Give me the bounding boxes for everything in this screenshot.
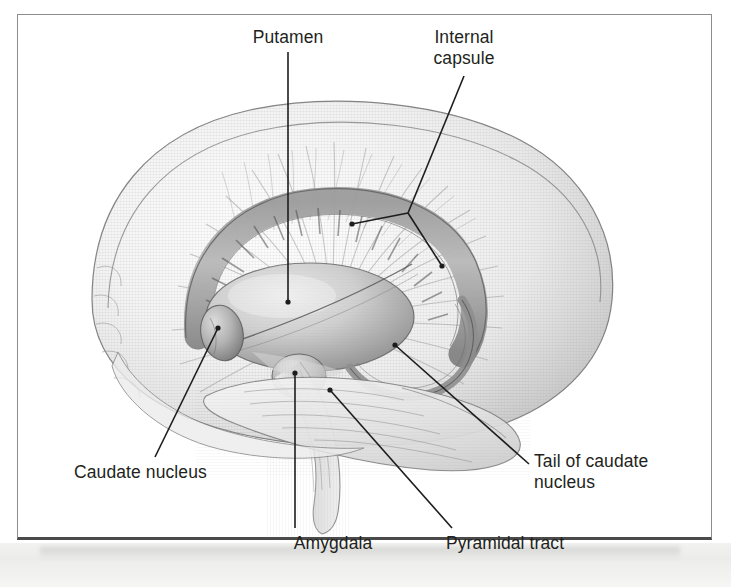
- label-putamen: Putamen: [228, 27, 348, 48]
- label-caudate-nucleus: Caudate nucleus: [74, 462, 264, 483]
- label-internal-capsule: Internalcapsule: [404, 27, 524, 70]
- label-internal-capsule-line1: Internal: [434, 27, 493, 47]
- label-tail-line1: Tail of caudate: [534, 451, 648, 471]
- label-pyramidal-tract: Pyramidal tract: [420, 533, 590, 554]
- label-tail-of-caudate-nucleus: Tail of caudatenucleus: [534, 451, 694, 494]
- label-amygdala: Amygdala: [268, 533, 398, 554]
- label-internal-capsule-line2: capsule: [433, 48, 494, 68]
- anatomical-figure: Putamen Internalcapsule Caudate nucleus …: [0, 0, 731, 587]
- label-tail-line2: nucleus: [534, 472, 595, 492]
